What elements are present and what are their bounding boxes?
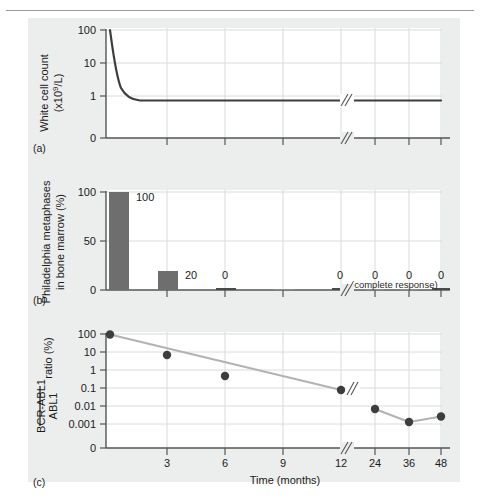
panel-b-xaxis-break-marker (340, 284, 354, 297)
panel-a-ytick-10: 10 (84, 57, 96, 69)
panel-c-chart: 100 10 1 0.1 0.01 0.001 0 BCR-ABL1 ABL1 … (0, 318, 480, 504)
panel-a-curve-break-marker (340, 94, 354, 107)
panel-a-chart: 100 10 1 0 White cell count (x109/L) (a) (0, 0, 480, 180)
panel-b-barlabel-6: 0 (438, 269, 444, 281)
panel-c-xtick-9: 9 (280, 457, 286, 469)
panel-c-point-6 (221, 372, 229, 380)
panel-c-ytick-0p1: 0.1 (81, 382, 96, 394)
panel-b-bar-0 (109, 192, 129, 290)
panel-c-ytick-0: 0 (90, 442, 96, 454)
panel-c-xtick-36: 36 (403, 457, 415, 469)
panel-c-series-break-marker (346, 382, 360, 396)
panel-c-label: (c) (33, 476, 45, 488)
panel-b-ylabel-line2: in bone marrow (%) (54, 194, 66, 290)
panel-c-xtick-48: 48 (435, 457, 447, 469)
panel-a-ytick-1: 1 (90, 90, 96, 102)
panel-c-point-36 (405, 418, 413, 426)
panel-c-ytick-10: 10 (84, 346, 96, 358)
figure-container: 100 10 1 0 White cell count (x109/L) (a) (0, 0, 480, 504)
panel-c-x-ticks (167, 448, 441, 455)
panel-c-ytick-1: 1 (90, 364, 96, 376)
panel-b-barlabel-2: 0 (222, 269, 228, 281)
panel-a-ylabel-line2: (x109/L) (51, 74, 64, 113)
panel-b-ytick-100: 100 (78, 186, 96, 198)
panel-c-point-0 (106, 330, 114, 338)
panel-c-xtick-6: 6 (222, 457, 228, 469)
panel-a-plot-area (106, 28, 442, 138)
panel-c-point-12 (337, 386, 345, 394)
panel-b-chart: 100 50 0 Philadelphia metaphases in bone… (0, 176, 480, 326)
panel-a-y-ticks (100, 30, 106, 138)
panel-c-point-3 (163, 351, 171, 359)
panel-c-ylabel-suffix: ratio (%) (42, 337, 54, 379)
panel-c-ytick-0p001: 0.001 (68, 418, 96, 430)
panel-a-ylabel-line1: White cell count (38, 54, 50, 132)
panel-a-xaxis-break-marker (340, 132, 354, 145)
panel-c-ytick-0p01: 0.01 (75, 400, 96, 412)
panel-b-label: (b) (33, 294, 46, 306)
panel-b-bar-3 (158, 271, 178, 290)
panel-b-complete-response-note: (complete response) (351, 279, 438, 290)
panel-c-ylabel-denominator: ABL1 (47, 393, 59, 420)
panel-a-label: (a) (33, 142, 46, 154)
panel-b-ytick-50: 50 (84, 235, 96, 247)
panel-c-xtick-3: 3 (164, 457, 170, 469)
panel-c-xtick-24: 24 (369, 457, 381, 469)
panel-c-point-48 (437, 412, 445, 420)
panel-b-barlabel-3: 0 (337, 269, 343, 281)
panel-b-bar-9 (274, 289, 294, 290)
panel-c-y-ticks (100, 334, 106, 448)
panel-c-ylabel-numerator: BCR-ABL1 (35, 379, 47, 433)
panel-b-y-ticks (100, 192, 106, 290)
panel-c-xtick-12: 12 (335, 457, 347, 469)
panel-b-barlabel-1: 20 (185, 269, 197, 281)
panel-c-point-24 (371, 405, 379, 413)
panel-a-ytick-100: 100 (78, 24, 96, 36)
panel-b-ytick-0: 0 (90, 284, 96, 296)
panel-a-x-ticks (167, 138, 441, 145)
panel-c-ytick-100: 100 (78, 328, 96, 340)
panel-c-xaxis-break-marker (340, 442, 354, 455)
panel-b-bar-6 (216, 288, 236, 290)
panel-c-plot-area (106, 332, 442, 448)
panel-b-x-ticks (167, 290, 441, 297)
panel-b-ylabel-line1: Philadelphia metaphases (40, 180, 52, 303)
panel-b-plot-area (106, 190, 442, 290)
panel-c-xlabel: Time (months) (250, 474, 321, 486)
panel-a-ytick-0: 0 (90, 132, 96, 144)
panel-b-barlabel-0: 100 (136, 191, 154, 203)
